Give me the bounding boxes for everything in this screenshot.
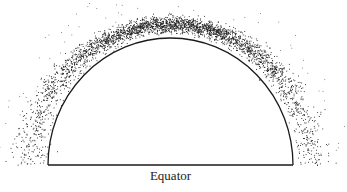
particle-dot: [170, 28, 171, 29]
particle-dot: [106, 43, 107, 44]
particle-dot: [57, 73, 58, 74]
particle-dot: [166, 27, 167, 28]
particle-dot: [119, 34, 120, 35]
particle-dot: [128, 24, 129, 25]
particle-dot: [280, 84, 281, 85]
particle-dot: [305, 132, 306, 133]
particle-dot: [325, 109, 326, 110]
particle-dot: [231, 40, 232, 41]
particle-dot: [125, 32, 126, 33]
particle-dot: [302, 96, 303, 97]
particle-dot: [312, 120, 313, 121]
particle-dot: [324, 79, 325, 80]
particle-dot: [118, 44, 119, 45]
particle-dot: [51, 78, 52, 79]
particle-dot: [124, 40, 125, 41]
particle-dot: [80, 73, 81, 74]
particle-dot: [285, 84, 286, 85]
particle-dot: [51, 115, 52, 116]
particle-dot: [278, 72, 279, 73]
particle-dot: [173, 29, 174, 30]
particle-dot: [192, 32, 193, 33]
particle-dot: [284, 94, 285, 95]
particle-dot: [186, 24, 187, 25]
particle-dot: [100, 39, 101, 40]
particle-dot: [271, 75, 272, 76]
particle-dot: [135, 33, 136, 34]
particle-dot: [189, 25, 190, 26]
particle-dot: [257, 54, 258, 55]
particle-dot: [57, 89, 58, 90]
particle-dot: [161, 27, 162, 28]
particle-dot: [190, 26, 191, 27]
particle-dot: [37, 106, 38, 107]
particle-dot: [175, 18, 176, 19]
particle-dot: [83, 55, 84, 56]
particle-dot: [211, 32, 212, 33]
particle-dot: [51, 76, 52, 77]
particle-dot: [315, 163, 316, 164]
particle-dot: [283, 81, 284, 82]
particle-dot: [63, 85, 64, 86]
particle-dot: [221, 32, 222, 33]
particle-dot: [167, 21, 168, 22]
particle-dot: [65, 78, 66, 79]
particle-dot: [243, 35, 244, 36]
particle-dot: [162, 18, 163, 19]
particle-dot: [272, 73, 273, 74]
particle-dot: [220, 25, 221, 26]
particle-dot: [289, 91, 290, 92]
particle-dot: [261, 60, 262, 61]
particle-dot: [197, 21, 198, 22]
particle-dot: [33, 124, 34, 125]
particle-dot: [305, 84, 306, 85]
particle-dot: [142, 19, 143, 20]
particle-dot: [314, 157, 315, 158]
particle-dot: [263, 63, 264, 64]
particle-dot: [118, 29, 119, 30]
particle-dot: [136, 21, 137, 22]
particle-dot: [32, 151, 33, 152]
hemisphere-outline: [48, 38, 293, 165]
particle-dot: [71, 69, 72, 70]
particle-dot: [272, 72, 273, 73]
particle-dot: [220, 28, 221, 29]
particle-dot: [253, 55, 254, 56]
particle-dot: [210, 33, 211, 34]
particle-dot: [280, 99, 281, 100]
particle-dot: [221, 26, 222, 27]
particle-dot: [236, 33, 237, 34]
particle-dot: [198, 33, 199, 34]
particle-dot: [104, 46, 105, 47]
particle-dot: [90, 66, 91, 67]
particle-dot: [104, 50, 105, 51]
particle-dot: [135, 27, 136, 28]
particle-dot: [245, 46, 246, 47]
particle-dot: [81, 73, 82, 74]
particle-dot: [140, 31, 141, 32]
particle-dot: [96, 45, 97, 46]
particle-dot: [231, 42, 232, 43]
particle-dot: [26, 113, 27, 114]
particle-dot: [130, 33, 131, 34]
particle-dot: [24, 157, 25, 158]
particle-dot: [144, 23, 145, 24]
particle-dot: [166, 31, 167, 32]
particle-dot: [34, 134, 35, 135]
particle-dot: [68, 69, 69, 70]
particle-dot: [42, 106, 43, 107]
particle-dot: [178, 27, 179, 28]
particle-dot: [123, 27, 124, 28]
particle-dot: [274, 70, 275, 71]
particle-dot: [147, 29, 148, 30]
particle-dot: [311, 145, 312, 146]
particle-dot: [264, 67, 265, 68]
particle-dot: [267, 61, 268, 62]
particle-dot: [267, 63, 268, 64]
particle-dot: [247, 46, 248, 47]
particle-dot: [213, 30, 214, 31]
particle-dot: [231, 50, 232, 51]
particle-dot: [257, 59, 258, 60]
particle-dot: [278, 77, 279, 78]
particle-dot: [137, 30, 138, 31]
